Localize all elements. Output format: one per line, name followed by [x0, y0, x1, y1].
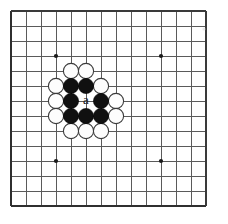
white-stone — [63, 63, 78, 78]
go-board-canvas: a — [0, 0, 228, 224]
white-stone — [63, 123, 78, 138]
point-labels: a — [83, 92, 89, 107]
white-stone — [93, 78, 108, 93]
star-point — [54, 54, 58, 58]
white-stone — [48, 78, 63, 93]
black-stone — [93, 93, 108, 108]
point-label-a: a — [83, 92, 89, 107]
white-stone — [93, 123, 108, 138]
star-point — [159, 159, 163, 163]
black-stone — [63, 108, 78, 123]
white-stone — [78, 63, 93, 78]
board-border — [11, 11, 206, 206]
black-stone — [78, 108, 93, 123]
white-stone — [48, 93, 63, 108]
star-point — [54, 159, 58, 163]
scan-artifacts — [202, 27, 205, 30]
scan-artifact-mark — [202, 27, 205, 30]
white-stone — [108, 93, 123, 108]
go-board-diagram: a — [0, 0, 228, 224]
black-stone — [63, 93, 78, 108]
grid-lines — [11, 11, 206, 206]
star-point — [159, 54, 163, 58]
white-stone — [78, 123, 93, 138]
black-stone — [93, 108, 108, 123]
black-stone — [63, 78, 78, 93]
white-stone — [48, 108, 63, 123]
black-stone — [78, 78, 93, 93]
white-stone — [108, 108, 123, 123]
